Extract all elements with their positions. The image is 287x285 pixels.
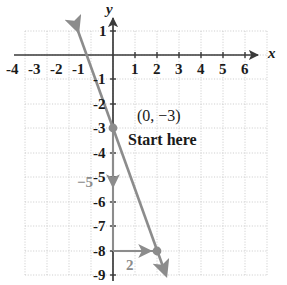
y-tick-neg8: -8 — [93, 244, 106, 259]
y-tick-neg1: -1 — [93, 72, 106, 87]
y-tick-neg5: -5 — [93, 170, 106, 185]
x-tick-6: 6 — [241, 62, 249, 77]
graph-figure: x y -4 -3 -2 -1 1 2 3 4 5 6 1 -1 -2 -3 -… — [0, 0, 287, 285]
x-tick-neg1: -1 — [72, 62, 85, 77]
point-y-intercept — [109, 124, 118, 133]
point-second — [153, 247, 162, 256]
y-tick-neg3: -3 — [93, 121, 106, 136]
slope-run-label: 2 — [126, 258, 134, 273]
slope-rise-label: −5 — [77, 175, 93, 190]
x-tick-5: 5 — [219, 62, 227, 77]
y-tick-neg6: -6 — [93, 195, 106, 210]
x-tick-3: 3 — [175, 62, 183, 77]
y-tick-neg7: -7 — [93, 219, 106, 234]
y-tick-neg2: -2 — [93, 97, 106, 112]
annotation-start-here: Start here — [128, 132, 197, 148]
x-tick-neg2: -2 — [50, 62, 63, 77]
x-tick-2: 2 — [153, 62, 161, 77]
axis-label-x: x — [268, 46, 276, 61]
x-tick-4: 4 — [197, 62, 205, 77]
axis-label-y: y — [106, 2, 113, 17]
y-tick-neg4: -4 — [93, 146, 106, 161]
y-tick-neg9: -9 — [93, 268, 106, 283]
x-tick-neg4: -4 — [6, 62, 19, 77]
annotation-point-label: (0, −3) — [137, 108, 181, 124]
x-tick-1: 1 — [131, 62, 139, 77]
x-tick-neg3: -3 — [28, 62, 41, 77]
y-tick-1: 1 — [99, 24, 107, 39]
